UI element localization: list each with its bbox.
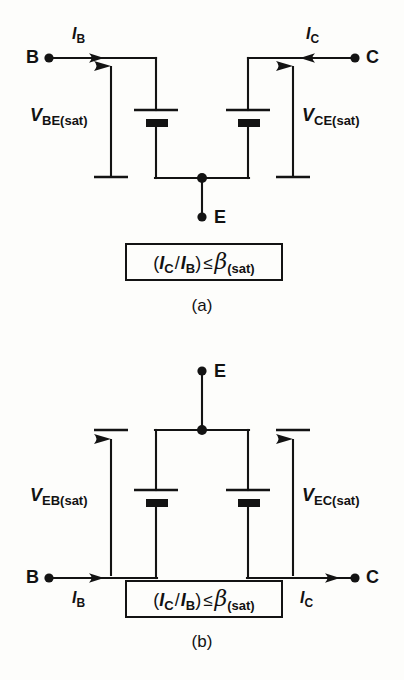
current-subscript-ic: C bbox=[304, 596, 313, 610]
terminal-dot-emitter bbox=[197, 366, 206, 375]
terminal-label-emitter: E bbox=[214, 362, 226, 380]
voltage-symbol-veb: V bbox=[30, 485, 42, 505]
eq-operator: ≤ bbox=[201, 591, 214, 610]
voltage-subscript-veb: EB(sat) bbox=[42, 493, 88, 508]
voltage-label-vce: VCE(sat) bbox=[302, 106, 360, 127]
current-label-ib: IB bbox=[72, 590, 85, 609]
eq-slash: / bbox=[174, 253, 181, 273]
figure-caption-b: (b) bbox=[0, 632, 404, 652]
equation-box-a: (IC/IB)≤β(sat) bbox=[125, 243, 283, 281]
eq-beta-subscript: (sat) bbox=[227, 597, 254, 612]
terminal-label-emitter: E bbox=[214, 208, 226, 226]
voltage-subscript-vec: EC(sat) bbox=[314, 493, 360, 508]
terminal-dot-collector bbox=[350, 53, 359, 62]
eq-beta-symbol: β bbox=[215, 586, 228, 611]
equation-box-b: (IC/IB)≤β(sat) bbox=[125, 580, 283, 618]
figure-b-circuit-drawing bbox=[0, 340, 404, 680]
equation-b: (IC/IB)≤β(sat) bbox=[153, 586, 254, 613]
voltage-symbol-vec: V bbox=[302, 485, 314, 505]
equation-a: (IC/IB)≤β(sat) bbox=[153, 249, 254, 276]
current-subscript-ib: B bbox=[76, 596, 85, 610]
voltage-subscript-vce: CE(sat) bbox=[314, 113, 360, 128]
voltage-arrow-vbe bbox=[94, 66, 128, 177]
eq-numerator-subscript: C bbox=[164, 260, 173, 275]
current-label-ic: IC bbox=[300, 590, 313, 609]
terminal-dot-base bbox=[44, 53, 53, 62]
voltage-subscript-vbe: BE(sat) bbox=[42, 113, 88, 128]
figure-a-npn-saturation-model: B C E IB IC VBE(sat) VCE(sat) (IC/IB)≤β(… bbox=[0, 0, 404, 340]
terminal-dot-base bbox=[44, 573, 53, 582]
figure-a-circuit-drawing bbox=[0, 0, 404, 340]
current-label-ib: IB bbox=[72, 26, 85, 45]
junction-dot-emitter-node bbox=[197, 173, 207, 183]
eq-denominator-subscript: B bbox=[186, 597, 195, 612]
current-label-ic: IC bbox=[306, 26, 319, 45]
terminal-dot-collector bbox=[350, 573, 359, 582]
eq-slash: / bbox=[174, 590, 181, 610]
voltage-arrow-veb bbox=[94, 430, 128, 576]
cell-left-bvs bbox=[134, 110, 178, 127]
eq-beta-symbol: β bbox=[215, 249, 228, 274]
voltage-symbol-vce: V bbox=[302, 105, 314, 125]
cell-right-ecs bbox=[226, 490, 270, 507]
current-subscript-ib: B bbox=[76, 32, 85, 46]
terminal-label-base: B bbox=[26, 568, 39, 586]
figure-b-pnp-saturation-model: E B C IB IC VEB(sat) VEC(sat) (IC/IB)≤β(… bbox=[0, 340, 404, 680]
voltage-label-veb: VEB(sat) bbox=[30, 486, 88, 507]
figure-page: B C E IB IC VBE(sat) VCE(sat) (IC/IB)≤β(… bbox=[0, 0, 404, 680]
terminal-label-collector: C bbox=[366, 48, 379, 66]
voltage-label-vbe: VBE(sat) bbox=[30, 106, 88, 127]
cell-left-ebs bbox=[134, 490, 178, 507]
cell-right-cvs bbox=[226, 110, 270, 127]
figure-caption-a: (a) bbox=[0, 296, 404, 316]
eq-numerator-subscript: C bbox=[164, 597, 173, 612]
voltage-symbol-vbe: V bbox=[30, 105, 42, 125]
terminal-dot-emitter bbox=[197, 212, 206, 221]
junction-dot-emitter-node bbox=[197, 425, 207, 435]
eq-operator: ≤ bbox=[201, 254, 214, 273]
current-subscript-ic: C bbox=[310, 32, 319, 46]
eq-beta-subscript: (sat) bbox=[227, 260, 254, 275]
voltage-label-vec: VEC(sat) bbox=[302, 486, 360, 507]
eq-denominator-subscript: B bbox=[186, 260, 195, 275]
terminal-label-collector: C bbox=[366, 568, 379, 586]
terminal-label-base: B bbox=[26, 48, 39, 66]
